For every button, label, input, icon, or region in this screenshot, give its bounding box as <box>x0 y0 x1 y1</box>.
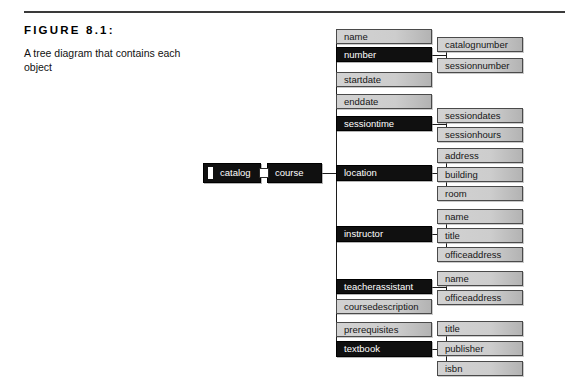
tree-node-label: room <box>445 189 467 199</box>
tree-node-label: name <box>445 212 469 222</box>
tree-node-label: publisher <box>445 344 484 354</box>
tree-node-ta-officeaddress[interactable]: officeaddress <box>437 290 523 305</box>
tree-node-label: coursedescription <box>344 302 418 312</box>
tree-node-label: textbook <box>344 344 380 354</box>
tree-node-label: isbn <box>445 364 462 374</box>
tree-node-label: startdate <box>344 75 381 85</box>
tree-node-label: building <box>445 170 478 180</box>
tree-node-sessiondates[interactable]: sessiondates <box>437 108 523 123</box>
tree-node-label: name <box>344 32 368 42</box>
tree-node-title[interactable]: title <box>437 228 523 243</box>
tree-node-label: prerequisites <box>344 325 398 335</box>
tree-node-publisher[interactable]: publisher <box>437 341 523 356</box>
tree-node-instructor[interactable]: instructor <box>336 226 432 242</box>
tree-node-sessionnumber[interactable]: sessionnumber <box>437 58 523 73</box>
tree-node-label: address <box>445 151 479 161</box>
tree-node-label: instructor <box>344 229 383 239</box>
tree-node-sessionhours[interactable]: sessionhours <box>437 127 523 142</box>
tree-node-label: catalog <box>220 168 251 178</box>
tree-node-isbn[interactable]: isbn <box>437 361 523 376</box>
tree-node-prerequisites[interactable]: prerequisites <box>336 322 432 337</box>
tree-node-label: sessionhours <box>445 130 501 140</box>
tree-node-sessiontime[interactable]: sessiontime <box>336 116 432 131</box>
tree-node-catalog[interactable]: catalog <box>203 163 261 183</box>
tree-node-location[interactable]: location <box>336 165 432 181</box>
tree-node-label: officeaddress <box>445 250 501 260</box>
tree-node-label: course <box>275 168 304 178</box>
tree-node-label: name <box>445 274 469 284</box>
tree-node-coursedescription[interactable]: coursedescription <box>336 299 432 314</box>
tree-node-textbook[interactable]: textbook <box>336 341 432 357</box>
tree-node-address[interactable]: address <box>437 148 523 163</box>
tree-node-catalognumber[interactable]: catalognumber <box>437 37 523 52</box>
tree-diagram: catalogcoursenamenumberstartdateenddates… <box>0 0 579 389</box>
tree-node-label: teacherassistant <box>344 282 413 292</box>
tree-node-label: sessionnumber <box>445 61 509 71</box>
tree-node-label: title <box>445 231 460 241</box>
tree-node-label: enddate <box>344 97 378 107</box>
tree-node-label: sessiondates <box>445 111 500 121</box>
tree-node-course[interactable]: course <box>267 163 322 183</box>
tree-node-instructor-name[interactable]: name <box>437 209 523 224</box>
catalog-course-connector <box>259 168 269 178</box>
root-marker-icon <box>208 167 213 179</box>
tree-node-number[interactable]: number <box>336 47 432 62</box>
tree-node-enddate[interactable]: enddate <box>336 94 432 109</box>
tree-node-label: sessiontime <box>344 119 394 129</box>
tree-node-label: catalognumber <box>445 40 508 50</box>
tree-node-room[interactable]: room <box>437 186 523 201</box>
tree-node-ta-name[interactable]: name <box>437 271 523 286</box>
tree-node-label: location <box>344 168 377 178</box>
tree-node-startdate[interactable]: startdate <box>336 72 432 87</box>
tree-node-label: officeaddress <box>445 293 501 303</box>
tree-node-label: title <box>445 324 460 334</box>
tree-node-teacherassistant[interactable]: teacherassistant <box>336 279 432 294</box>
tree-node-name[interactable]: name <box>336 29 432 44</box>
tree-node-building[interactable]: building <box>437 167 523 182</box>
tree-node-label: number <box>344 50 376 60</box>
tree-node-book-title[interactable]: title <box>437 321 523 336</box>
tree-node-officeaddress[interactable]: officeaddress <box>437 247 523 262</box>
